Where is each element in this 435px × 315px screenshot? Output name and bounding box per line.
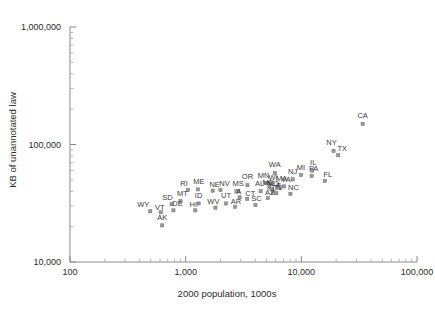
data-point-marker bbox=[337, 154, 340, 157]
data-point-label: NC bbox=[288, 183, 299, 192]
data-point-label: WY bbox=[137, 200, 149, 209]
data-point-label: RI bbox=[180, 179, 188, 188]
x-tick-label: 1,000 bbox=[174, 267, 197, 277]
data-point-marker bbox=[214, 206, 217, 209]
data-point-marker bbox=[282, 185, 285, 188]
y-tick-label: 100,000 bbox=[28, 140, 61, 150]
y-tick-label: 1,000,000 bbox=[21, 22, 61, 32]
data-point-label: CA bbox=[357, 111, 367, 120]
data-point-label: MA bbox=[276, 174, 287, 183]
data-point-label: MT bbox=[177, 189, 188, 198]
data-point-label: NV bbox=[219, 179, 229, 188]
data-point-label: SD bbox=[162, 193, 173, 202]
data-point-marker bbox=[246, 184, 249, 187]
data-point-label: ID bbox=[195, 191, 203, 200]
chart-canvas: 1001,00010,000100,00010,000100,0001,000,… bbox=[0, 0, 435, 315]
data-point-label: ME bbox=[193, 177, 204, 186]
data-point-marker bbox=[161, 224, 164, 227]
data-point-label: WA bbox=[269, 160, 281, 169]
data-point-label: IN bbox=[275, 183, 283, 192]
data-point-marker bbox=[259, 190, 262, 193]
data-point-label: HI bbox=[190, 200, 198, 209]
axes-layer: 1001,00010,000100,00010,000100,0001,000,… bbox=[21, 22, 433, 277]
data-point-marker bbox=[197, 202, 200, 205]
data-point-marker bbox=[299, 173, 302, 176]
data-point-marker bbox=[172, 209, 175, 212]
data-point-marker bbox=[291, 178, 294, 181]
data-point-label: MI bbox=[297, 163, 305, 172]
x-tick-label: 100,000 bbox=[401, 267, 434, 277]
data-point-label: DE bbox=[172, 199, 182, 208]
data-point-label: NY bbox=[326, 138, 336, 147]
data-point-marker bbox=[224, 202, 227, 205]
data-point-label: SC bbox=[251, 194, 262, 203]
data-point-label: WV bbox=[207, 197, 219, 206]
data-point-label: TX bbox=[337, 144, 347, 153]
data-point-marker bbox=[289, 192, 292, 195]
x-tick-label: 10,000 bbox=[288, 267, 316, 277]
scatter-plot-figure: 1001,00010,000100,00010,000100,0001,000,… bbox=[0, 0, 435, 315]
x-tick-label: 100 bbox=[62, 267, 77, 277]
y-tick-label: 10,000 bbox=[33, 257, 61, 267]
data-point-marker bbox=[361, 122, 364, 125]
data-point-marker bbox=[323, 179, 326, 182]
data-point-label: AK bbox=[157, 213, 167, 222]
data-point-label: AR bbox=[231, 197, 242, 206]
y-axis-title: KB of unannotated law bbox=[7, 92, 18, 188]
data-point-label: VT bbox=[155, 203, 165, 212]
data-point-label: OR bbox=[242, 172, 254, 181]
data-point-marker bbox=[310, 174, 313, 177]
data-point-label: IA bbox=[234, 187, 241, 196]
data-point-marker bbox=[211, 189, 214, 192]
data-point-label: FL bbox=[324, 170, 333, 179]
data-point-marker bbox=[332, 149, 335, 152]
x-axis-title: 2000 population, 1000s bbox=[178, 288, 277, 299]
data-point-label: PA bbox=[309, 164, 318, 173]
point-labels-layer: AKWYVTDESDMTHIIDRIMENENVWVUTARMSIACTSCOR… bbox=[137, 111, 368, 223]
data-point-marker bbox=[149, 210, 152, 213]
data-point-marker bbox=[254, 203, 257, 206]
